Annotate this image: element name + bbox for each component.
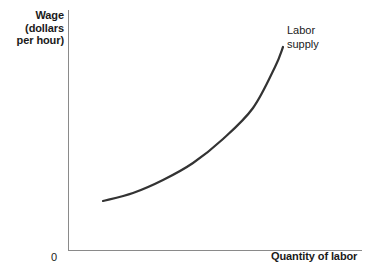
y-axis-title: Wage (dollars per hour)	[17, 9, 64, 47]
origin-label: 0	[51, 251, 57, 264]
x-axis-title: Quantity of labor	[271, 250, 357, 263]
labor-supply-chart: Wage (dollars per hour) Quantity of labo…	[0, 0, 375, 271]
labor-supply-curve	[103, 47, 283, 201]
labor-supply-annotation: Labor supply	[287, 24, 319, 51]
